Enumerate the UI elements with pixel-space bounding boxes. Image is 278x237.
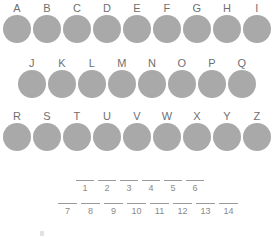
circle-token-o[interactable]	[168, 70, 196, 98]
circle-token-i[interactable]	[243, 15, 271, 43]
circle-cell-i[interactable]: I	[243, 2, 271, 43]
circle-cell-k[interactable]: K	[48, 57, 76, 98]
circle-cell-m[interactable]: M	[108, 57, 136, 98]
circle-token-b[interactable]	[33, 15, 61, 43]
circle-label-v: V	[133, 110, 141, 123]
circle-cell-t[interactable]: T	[63, 110, 91, 151]
circle-token-e[interactable]	[123, 15, 151, 43]
blank-number-10: 10	[131, 206, 141, 216]
answer-blank-14[interactable]: 14	[219, 203, 238, 216]
circle-cell-y[interactable]: Y	[213, 110, 241, 151]
circle-cell-g[interactable]: G	[183, 2, 211, 43]
answer-blank-2[interactable]: 2	[98, 180, 116, 193]
blank-line-3[interactable]	[120, 180, 138, 181]
blank-line-5[interactable]	[164, 180, 182, 181]
circle-token-w[interactable]	[153, 123, 181, 151]
blank-line-1[interactable]	[76, 180, 94, 181]
circle-label-p: P	[208, 57, 216, 70]
circle-cell-v[interactable]: V	[123, 110, 151, 151]
circle-cell-p[interactable]: P	[198, 57, 226, 98]
blank-number-3: 3	[126, 183, 131, 193]
circle-label-n: N	[148, 57, 156, 70]
circle-label-k: K	[58, 57, 66, 70]
circle-token-h[interactable]	[213, 15, 241, 43]
circle-row-2: J K L M N O P Q	[18, 57, 256, 98]
answer-blank-row-bottom: 7 8 9 10 11 12 13 14	[58, 203, 238, 216]
circle-cell-w[interactable]: W	[153, 110, 181, 151]
circle-cell-h[interactable]: H	[213, 2, 241, 43]
circle-cell-f[interactable]: F	[153, 2, 181, 43]
circle-token-j[interactable]	[18, 70, 46, 98]
circle-token-g[interactable]	[183, 15, 211, 43]
answer-blank-13[interactable]: 13	[196, 203, 215, 216]
circle-token-n[interactable]	[138, 70, 166, 98]
answer-blank-5[interactable]: 5	[164, 180, 182, 193]
circle-cell-l[interactable]: L	[78, 57, 106, 98]
circle-token-u[interactable]	[93, 123, 121, 151]
blank-line-9[interactable]	[104, 203, 123, 204]
circle-token-y[interactable]	[213, 123, 241, 151]
circle-label-z: Z	[253, 110, 260, 123]
circle-token-t[interactable]	[63, 123, 91, 151]
circle-cell-a[interactable]: A	[3, 2, 31, 43]
blank-line-12[interactable]	[173, 203, 192, 204]
blank-line-11[interactable]	[150, 203, 169, 204]
circle-token-x[interactable]	[183, 123, 211, 151]
blank-line-2[interactable]	[98, 180, 116, 181]
circle-label-j: J	[29, 57, 35, 70]
circle-token-s[interactable]	[33, 123, 61, 151]
answer-blank-10[interactable]: 10	[127, 203, 146, 216]
circle-token-z[interactable]	[243, 123, 271, 151]
circle-token-m[interactable]	[108, 70, 136, 98]
blank-line-14[interactable]	[219, 203, 238, 204]
circle-cell-n[interactable]: N	[138, 57, 166, 98]
circle-cell-o[interactable]: O	[168, 57, 196, 98]
answer-blank-3[interactable]: 3	[120, 180, 138, 193]
circle-cell-x[interactable]: X	[183, 110, 211, 151]
circle-token-k[interactable]	[48, 70, 76, 98]
answer-blank-8[interactable]: 8	[81, 203, 100, 216]
circle-token-p[interactable]	[198, 70, 226, 98]
circle-token-f[interactable]	[153, 15, 181, 43]
circle-label-w: W	[162, 110, 173, 123]
circle-label-s: S	[43, 110, 51, 123]
blank-line-8[interactable]	[81, 203, 100, 204]
blank-number-4: 4	[148, 183, 153, 193]
circle-cell-b[interactable]: B	[33, 2, 61, 43]
circle-token-l[interactable]	[78, 70, 106, 98]
circle-label-d: D	[103, 2, 111, 15]
answer-blank-11[interactable]: 11	[150, 203, 169, 216]
blank-line-7[interactable]	[58, 203, 77, 204]
circle-token-c[interactable]	[63, 15, 91, 43]
circle-token-v[interactable]	[123, 123, 151, 151]
answer-blank-9[interactable]: 9	[104, 203, 123, 216]
answer-blank-1[interactable]: 1	[76, 180, 94, 193]
circle-cell-u[interactable]: U	[93, 110, 121, 151]
blank-line-6[interactable]	[186, 180, 204, 181]
circle-cell-r[interactable]: R	[3, 110, 31, 151]
answer-blank-6[interactable]: 6	[186, 180, 204, 193]
blank-number-11: 11	[155, 206, 164, 216]
blank-number-6: 6	[192, 183, 197, 193]
circle-token-d[interactable]	[93, 15, 121, 43]
circle-token-a[interactable]	[3, 15, 31, 43]
blank-line-13[interactable]	[196, 203, 215, 204]
circle-cell-j[interactable]: J	[18, 57, 46, 98]
circle-cell-c[interactable]: C	[63, 2, 91, 43]
circle-label-a: A	[13, 2, 21, 15]
circle-token-r[interactable]	[3, 123, 31, 151]
circle-label-y: Y	[223, 110, 231, 123]
circle-cell-e[interactable]: E	[123, 2, 151, 43]
answer-blank-row-top: 1 2 3 4 5 6	[76, 180, 204, 193]
circle-token-q[interactable]	[228, 70, 256, 98]
blank-line-10[interactable]	[127, 203, 146, 204]
answer-blank-4[interactable]: 4	[142, 180, 160, 193]
circle-label-q: Q	[238, 57, 247, 70]
circle-cell-s[interactable]: S	[33, 110, 61, 151]
circle-cell-d[interactable]: D	[93, 2, 121, 43]
answer-blank-7[interactable]: 7	[58, 203, 77, 216]
circle-cell-q[interactable]: Q	[228, 57, 256, 98]
circle-cell-z[interactable]: Z	[243, 110, 271, 151]
answer-blank-12[interactable]: 12	[173, 203, 192, 216]
blank-line-4[interactable]	[142, 180, 160, 181]
